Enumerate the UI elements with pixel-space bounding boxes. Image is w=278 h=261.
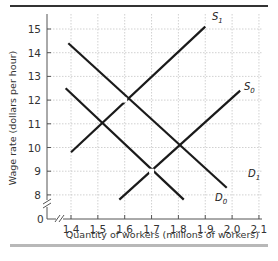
curve-label-s0: S0 bbox=[244, 81, 255, 95]
tick-labels: 1.41.51.61.71.81.92.02.189101112131415 bbox=[28, 23, 268, 235]
axes bbox=[43, 14, 262, 223]
y-tick-label: 8 bbox=[34, 189, 41, 201]
curve-s1 bbox=[71, 27, 205, 153]
x-axis-break-icon bbox=[55, 215, 64, 223]
origin-label: 0 bbox=[37, 213, 44, 225]
y-tick-label: 12 bbox=[28, 94, 41, 106]
top-rule bbox=[10, 5, 268, 7]
curve-label-s1: S1 bbox=[212, 11, 223, 25]
y-tick-label: 14 bbox=[28, 47, 42, 59]
equilibrium-point-marker bbox=[149, 169, 154, 174]
curve-label-d0: D0 bbox=[215, 192, 228, 206]
x-axis-title: Quantity of workers (millions of workers… bbox=[66, 229, 259, 240]
y-axis-break-icon bbox=[43, 199, 51, 208]
y-tick-label: 11 bbox=[28, 118, 41, 130]
bottom-rule bbox=[10, 244, 268, 247]
chart: 1.41.51.61.71.81.92.02.189101112131415 S… bbox=[0, 0, 278, 261]
y-tick-label: 15 bbox=[28, 23, 41, 35]
equilibrium-point-marker bbox=[122, 98, 127, 103]
y-axis-title: Wage rate (dollars per hour) bbox=[7, 51, 18, 186]
y-tick-label: 13 bbox=[28, 70, 41, 82]
grid bbox=[47, 14, 262, 219]
y-tick-label: 10 bbox=[28, 142, 41, 154]
y-tick-label: 9 bbox=[34, 165, 41, 177]
curve-label-d1: D1 bbox=[248, 168, 260, 182]
